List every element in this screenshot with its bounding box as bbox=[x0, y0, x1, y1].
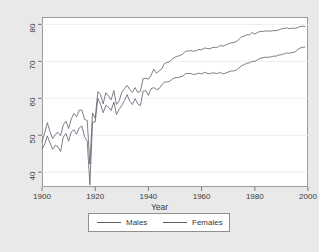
x-tick-label: 1960 bbox=[182, 192, 222, 201]
y-tick-label: 50 bbox=[28, 135, 37, 167]
chart-legend: Males Females bbox=[88, 213, 230, 232]
legend-swatch-females bbox=[163, 222, 187, 223]
legend-item-females[interactable]: Females bbox=[163, 214, 223, 231]
x-tick-label: 1980 bbox=[235, 192, 275, 201]
legend-swatch-males bbox=[97, 222, 121, 223]
chart-figure: 4050607080 190019201940196019802000 Year… bbox=[0, 0, 319, 252]
y-tick-label: 80 bbox=[28, 24, 37, 56]
x-tick-label: 1900 bbox=[22, 192, 62, 201]
legend-item-males[interactable]: Males bbox=[97, 214, 147, 231]
y-tick-label: 60 bbox=[28, 98, 37, 130]
x-tick-label: 1940 bbox=[128, 192, 168, 201]
legend-label-males: Males bbox=[126, 218, 147, 227]
x-tick-label: 1920 bbox=[75, 192, 115, 201]
legend-label-females: Females bbox=[192, 218, 223, 227]
y-tick-label: 70 bbox=[28, 61, 37, 93]
x-axis-title: Year bbox=[0, 202, 319, 212]
x-tick-label: 2000 bbox=[288, 192, 319, 201]
